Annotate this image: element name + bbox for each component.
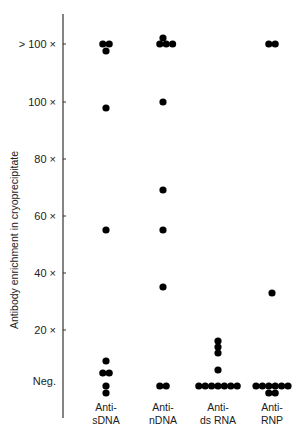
category-labels: Anti-sDNAAnti-nDNAAnti-ds RNAAnti-RNP: [92, 401, 283, 426]
data-point: [214, 349, 221, 356]
category-label: RNP: [261, 414, 283, 426]
data-point: [272, 382, 279, 389]
y-tick-label: 40 ×: [34, 267, 56, 279]
category-label: Anti-: [95, 401, 117, 413]
data-points: [99, 34, 291, 396]
category-label: Anti-: [207, 401, 229, 413]
data-point: [159, 283, 166, 290]
data-point: [169, 40, 176, 47]
y-tick-label: 20 ×: [34, 324, 56, 336]
data-point: [99, 40, 106, 47]
category-label: Anti-: [261, 401, 283, 413]
y-axis-ticks: > 100 ×100 ×80 ×60 ×40 ×20 ×Neg.: [19, 38, 66, 387]
category-label: ds RNA: [200, 414, 236, 426]
data-point: [102, 389, 109, 396]
data-point: [202, 382, 209, 389]
data-point: [163, 40, 170, 47]
data-point: [252, 382, 259, 389]
data-point: [278, 382, 285, 389]
category-label: Anti-: [152, 401, 174, 413]
data-point: [284, 382, 291, 389]
data-point: [268, 289, 275, 296]
data-point: [163, 382, 170, 389]
data-point: [102, 382, 109, 389]
data-point: [159, 186, 166, 193]
data-point: [227, 382, 234, 389]
data-point: [272, 389, 279, 396]
y-axis-label: Antibody enrichment in cryoprecipitate: [8, 151, 20, 329]
data-point: [159, 98, 166, 105]
data-point: [234, 382, 241, 389]
y-tick-label: Neg.: [33, 375, 56, 387]
data-point: [159, 226, 166, 233]
y-tick-label: 100 ×: [28, 96, 56, 108]
data-point: [265, 382, 272, 389]
data-point: [221, 382, 228, 389]
data-point: [106, 40, 113, 47]
data-point: [99, 369, 106, 376]
data-point: [259, 382, 266, 389]
dot-plot-chart: Antibody enrichment in cryoprecipitate >…: [0, 0, 302, 435]
data-point: [156, 40, 163, 47]
data-point: [106, 369, 113, 376]
data-point: [265, 40, 272, 47]
data-point: [265, 389, 272, 396]
data-point: [272, 40, 279, 47]
category-label: nDNA: [149, 414, 177, 426]
y-tick-label: 80 ×: [34, 153, 56, 165]
data-point: [102, 226, 109, 233]
y-tick-label: > 100 ×: [19, 38, 56, 50]
data-point: [156, 382, 163, 389]
data-point: [102, 104, 109, 111]
data-point: [102, 47, 109, 54]
y-tick-label: 60 ×: [34, 210, 56, 222]
category-label: sDNA: [92, 414, 119, 426]
data-point: [102, 357, 109, 364]
data-point: [214, 366, 221, 373]
data-point: [208, 382, 215, 389]
data-point: [214, 382, 221, 389]
data-point: [195, 382, 202, 389]
